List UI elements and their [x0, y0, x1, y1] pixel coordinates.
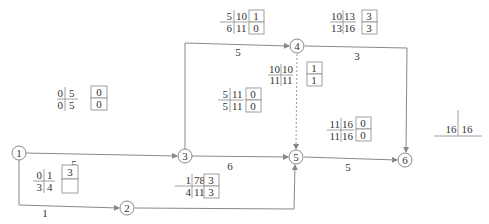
svg-text:3: 3	[208, 186, 214, 198]
project-duration: 16 16	[434, 110, 482, 136]
svg-text:11: 11	[329, 118, 340, 130]
svg-text:11: 11	[329, 130, 340, 142]
svg-text:0: 0	[58, 87, 64, 99]
svg-text:16: 16	[342, 130, 354, 142]
duration-3-5: 6	[227, 160, 233, 172]
svg-text:10: 10	[236, 10, 248, 22]
svg-text:11: 11	[194, 186, 205, 198]
params-3-5: 5 11 5 11 0 0	[218, 88, 261, 112]
svg-text:1: 1	[311, 62, 317, 74]
svg-text:3: 3	[366, 22, 372, 34]
params-1-3: 0 5 0 5 0 0	[57, 86, 107, 111]
node-4: 4	[290, 39, 304, 53]
svg-text:5: 5	[293, 151, 299, 163]
svg-text:16: 16	[342, 118, 354, 130]
svg-text:11: 11	[269, 74, 280, 86]
svg-text:1: 1	[311, 74, 317, 86]
svg-text:4: 4	[294, 40, 300, 52]
svg-text:2: 2	[124, 202, 130, 214]
duration-4-6: 3	[354, 50, 360, 62]
svg-text:5: 5	[69, 87, 75, 99]
svg-text:11: 11	[232, 100, 243, 112]
calculated-duration: 16	[446, 123, 458, 135]
svg-text:11: 11	[232, 88, 243, 100]
svg-text:5: 5	[223, 88, 229, 100]
svg-text:11: 11	[282, 74, 293, 86]
params-4-5: 10 10 11 11 1 1	[268, 62, 322, 86]
duration-5-6: 5	[345, 161, 351, 173]
planned-duration: 16	[462, 123, 474, 135]
svg-text:0: 0	[96, 98, 102, 110]
edge-3-5	[192, 156, 288, 157]
svg-text:1: 1	[186, 174, 192, 186]
node-5: 5	[289, 150, 303, 164]
svg-text:0: 0	[360, 129, 366, 141]
svg-text:0: 0	[250, 88, 256, 100]
svg-text:5: 5	[223, 100, 229, 112]
node-3: 3	[178, 149, 192, 163]
params-3-4: 5 10 6 11 1 0	[220, 10, 264, 34]
svg-text:1: 1	[16, 147, 22, 159]
node-1: 1	[12, 146, 26, 160]
edge-4-5-dummy	[296, 54, 297, 149]
svg-text:3: 3	[366, 10, 372, 22]
svg-text:13: 13	[331, 22, 343, 34]
svg-text:5: 5	[69, 99, 75, 111]
duration-3-4: 5	[235, 46, 241, 58]
node-2: 2	[120, 201, 134, 215]
svg-text:11: 11	[236, 22, 247, 34]
svg-text:0: 0	[253, 22, 259, 34]
node-6: 6	[398, 153, 412, 167]
params-4-6: 10 13 13 16 3 3	[330, 10, 377, 34]
svg-text:1: 1	[47, 169, 53, 181]
duration-1-2: 1	[42, 207, 48, 219]
svg-text:16: 16	[344, 22, 356, 34]
svg-text:0: 0	[96, 86, 102, 98]
svg-text:0: 0	[250, 100, 256, 112]
edge-5-6	[304, 157, 397, 160]
svg-text:3: 3	[208, 174, 214, 186]
svg-text:6: 6	[402, 154, 408, 166]
params-1-2: 0 1 3 4 3	[33, 165, 78, 193]
params-5-6: 11 16 11 16 0 0	[327, 117, 371, 142]
svg-text:4: 4	[186, 186, 192, 198]
svg-text:10: 10	[331, 10, 343, 22]
network-diagram: 5 1 5 6 3 5 1 2 3 4 5 6 0 5 0 5 0 0 0 1 …	[0, 0, 489, 224]
svg-text:3: 3	[37, 181, 43, 193]
svg-text:0: 0	[360, 117, 366, 129]
params-2-5: 1 78 4 11 3 3	[175, 174, 219, 198]
svg-text:13: 13	[344, 10, 356, 22]
edge-1-3	[26, 153, 177, 156]
svg-text:0: 0	[37, 169, 43, 181]
svg-text:1: 1	[253, 10, 259, 22]
svg-text:3: 3	[67, 166, 73, 178]
svg-text:6: 6	[227, 22, 233, 34]
svg-text:3: 3	[182, 150, 188, 162]
svg-text:0: 0	[58, 99, 64, 111]
svg-text:4: 4	[47, 181, 53, 193]
svg-text:5: 5	[227, 10, 233, 22]
